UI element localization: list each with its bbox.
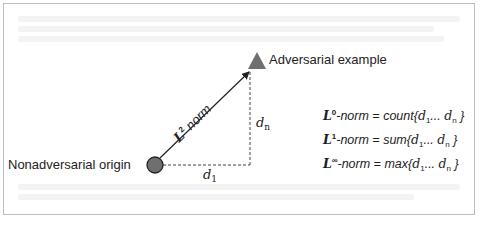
origin-circle-icon xyxy=(147,157,163,173)
norm-arg: d xyxy=(418,108,426,123)
norm-base: L xyxy=(323,156,332,171)
norm-text: -norm = max{ xyxy=(338,157,413,171)
dn-label: dn xyxy=(256,116,270,134)
target-label: Adversarial example xyxy=(269,53,387,67)
d1-label: d1 xyxy=(203,168,217,186)
norm-arg: d xyxy=(411,132,419,147)
norm-base: L xyxy=(323,108,332,123)
norm-arg: d xyxy=(412,156,420,171)
origin-label: Nonadversarial origin xyxy=(8,158,131,172)
norm-arg: d xyxy=(439,156,447,171)
norm-close: } xyxy=(451,157,459,171)
norm-text: -norm = sum{ xyxy=(336,133,411,147)
l1-norm-definition: L1-norm = sum{d1... dn } xyxy=(323,129,464,153)
norm-ellipsis: ... xyxy=(425,157,439,171)
norm-ellipsis: ... xyxy=(430,109,444,123)
norm-base: L xyxy=(323,132,332,147)
target-triangle-icon xyxy=(248,52,266,69)
linf-norm-definition: L∞-norm = max{d1... dn } xyxy=(323,153,464,177)
dn-subscript: n xyxy=(264,122,270,132)
norm-close: } xyxy=(457,109,465,123)
norm-close: } xyxy=(450,133,458,147)
l0-norm-definition: L0-norm = count{d1... dn } xyxy=(323,105,464,129)
d1-subscript: 1 xyxy=(211,174,217,184)
norm-ellipsis: ... xyxy=(423,133,437,147)
norm-definitions: L0-norm = count{d1... dn } L1-norm = sum… xyxy=(323,105,464,177)
norm-text: -norm = count{ xyxy=(336,109,418,123)
